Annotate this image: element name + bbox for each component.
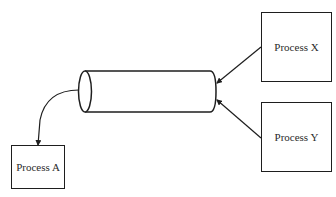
process-x-box: Process X [261,12,332,82]
arrow-x-to-queue [217,47,261,83]
process-a-box: Process A [11,145,65,189]
cylinder-end-ellipse [79,71,92,112]
process-y-box: Process Y [261,102,332,172]
process-x-label: Process X [274,41,318,53]
process-a-label: Process A [16,161,60,173]
queue-cylinder [79,71,217,112]
arrow-queue-to-a [38,90,79,145]
arrow-y-to-queue [217,100,261,138]
process-y-label: Process Y [275,131,319,143]
